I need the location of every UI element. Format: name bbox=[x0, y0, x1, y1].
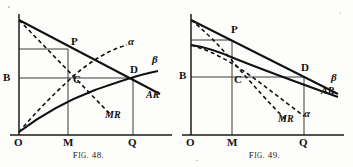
point-label-c: C bbox=[234, 74, 242, 85]
curve-mr-49 bbox=[191, 20, 286, 120]
guide-lines-48 bbox=[19, 49, 133, 135]
point-label-d: D bbox=[301, 62, 309, 73]
curve-label-alpha: α bbox=[304, 108, 310, 119]
curve-label-beta: β bbox=[152, 54, 158, 65]
figure-48: P C D B O M Q α β AR MR FIG. 48. bbox=[0, 0, 177, 167]
scan-speck bbox=[8, 6, 10, 8]
figure-49-caption: FIG. 49. bbox=[176, 150, 353, 160]
curve-ar-48 bbox=[19, 20, 160, 94]
scan-speck bbox=[196, 160, 198, 161]
scan-speck bbox=[340, 12, 341, 14]
figure-49: P C D B O M Q α β AR MR FIG. 49. bbox=[176, 0, 353, 167]
curve-label-ar: AR bbox=[146, 90, 159, 100]
curve-ar-49 bbox=[191, 20, 338, 94]
curve-label-mr: MR bbox=[278, 114, 294, 124]
figure-48-caption: FIG. 48. bbox=[0, 150, 177, 160]
point-label-p: P bbox=[231, 24, 238, 35]
point-label-p: P bbox=[71, 36, 78, 47]
figure-48-plot bbox=[0, 0, 177, 145]
axis-label-origin: O bbox=[14, 137, 23, 148]
axes-49 bbox=[182, 14, 344, 135]
curve-label-beta: β bbox=[331, 72, 337, 83]
curve-label-mr: MR bbox=[105, 110, 121, 120]
curve-alpha-49 bbox=[191, 45, 304, 116]
axis-label-q: Q bbox=[128, 137, 137, 148]
caption-smallcaps: IG bbox=[254, 152, 262, 160]
caption-suffix: . 49. bbox=[263, 150, 281, 160]
curve-label-ar: AR bbox=[321, 86, 334, 96]
axis-label-m: M bbox=[227, 137, 237, 148]
curve-beta-48 bbox=[19, 71, 158, 132]
axis-label-m: M bbox=[63, 137, 73, 148]
axis-label-q: Q bbox=[299, 137, 308, 148]
point-label-c: C bbox=[73, 74, 81, 85]
figure-plate: P C D B O M Q α β AR MR FIG. 48. bbox=[0, 0, 353, 167]
caption-suffix: . 48. bbox=[87, 150, 105, 160]
curve-mr-48 bbox=[19, 20, 110, 114]
curve-label-alpha: α bbox=[128, 36, 134, 47]
axes-48 bbox=[10, 14, 172, 135]
axis-label-b: B bbox=[179, 70, 186, 81]
figure-49-plot bbox=[176, 0, 353, 145]
axis-label-origin: O bbox=[186, 137, 195, 148]
caption-smallcaps: IG bbox=[78, 152, 86, 160]
point-label-d: D bbox=[130, 64, 138, 75]
axis-label-b: B bbox=[3, 72, 10, 83]
